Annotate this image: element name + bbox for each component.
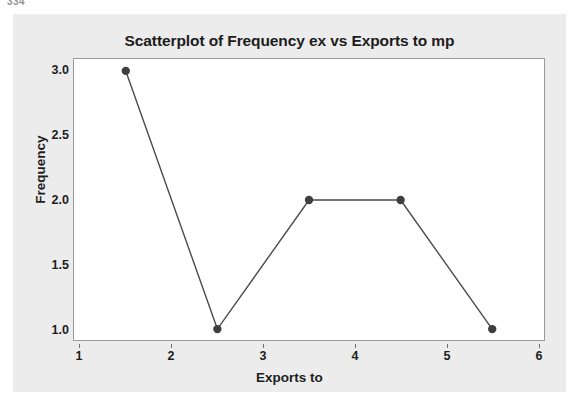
x-axis-title: Exports to: [13, 370, 566, 385]
x-axis-tick-labels: 123456: [73, 344, 545, 366]
x-tick-mark: [539, 344, 540, 348]
x-tick-label: 2: [168, 349, 175, 363]
x-tick-label: 5: [444, 349, 451, 363]
data-point-marker: [213, 325, 221, 333]
x-tick-mark: [79, 344, 80, 348]
data-point-marker: [122, 67, 130, 75]
x-tick-mark: [355, 344, 356, 348]
x-tick-label: 6: [536, 349, 543, 363]
plot-series-svg: [74, 59, 544, 340]
data-point-marker: [488, 325, 496, 333]
y-tick-label: 1.0: [35, 324, 69, 336]
x-tick-label: 4: [352, 349, 359, 363]
y-axis-tick-labels: 1.01.52.02.53.0: [29, 58, 69, 341]
data-point-marker: [305, 196, 313, 204]
plot-panel: [73, 58, 545, 341]
y-tick-label: 2.0: [35, 194, 69, 206]
chart-title: Scatterplot of Frequency ex vs Exports t…: [13, 32, 566, 50]
page-corner-text-remnant: 334: [7, 0, 41, 8]
chart-card: Scatterplot of Frequency ex vs Exports t…: [13, 14, 566, 392]
x-tick-mark: [447, 344, 448, 348]
x-tick-mark: [171, 344, 172, 348]
data-point-marker: [396, 196, 404, 204]
x-tick-mark: [263, 344, 264, 348]
x-tick-label: 3: [260, 349, 267, 363]
y-tick-label: 2.5: [35, 129, 69, 141]
y-tick-label: 1.5: [35, 259, 69, 271]
y-tick-label: 3.0: [35, 64, 69, 76]
x-tick-label: 1: [76, 349, 83, 363]
